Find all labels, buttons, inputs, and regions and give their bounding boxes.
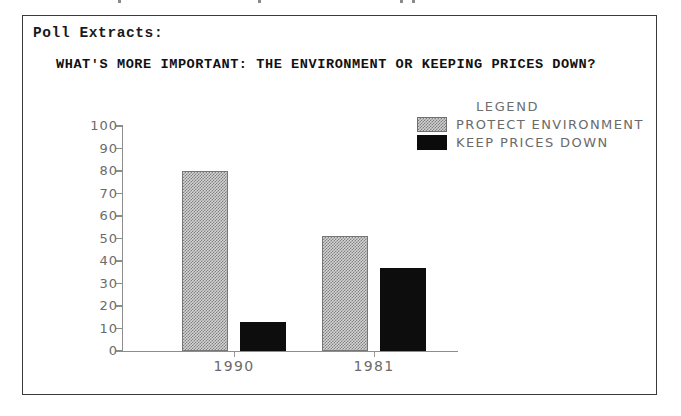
bar-1981-protect-environment (322, 236, 368, 351)
chart-title: WHAT'S MORE IMPORTANT: THE ENVIRONMENT O… (56, 57, 596, 72)
y-tick-label: 30 (78, 276, 118, 291)
bar-chart-plot-area: 0102030405060708090100 19901981 (80, 126, 470, 376)
scan-artifact-strip (0, 0, 681, 9)
bars-layer (122, 126, 458, 351)
x-tick-label-1981: 1981 (354, 358, 395, 374)
section-label: Poll Extracts: (33, 25, 163, 41)
y-tick-label: 100 (78, 118, 118, 133)
y-tick-label: 0 (78, 343, 118, 358)
legend-title: LEGEND (476, 99, 644, 114)
legend-label-keep-prices-down: KEEP PRICES DOWN (456, 135, 609, 150)
y-tick-label: 80 (78, 163, 118, 178)
legend-label-protect-environment: PROTECT ENVIRONMENT (456, 117, 644, 132)
y-tick-label: 90 (78, 141, 118, 156)
y-tick-label: 60 (78, 208, 118, 223)
y-tick-label: 70 (78, 186, 118, 201)
y-tick-label: 50 (78, 231, 118, 246)
bar-1990-protect-environment (182, 171, 228, 351)
y-tick-label: 40 (78, 253, 118, 268)
x-tick-label-1990: 1990 (214, 358, 255, 374)
x-tick-mark (374, 351, 375, 357)
y-tick-label: 20 (78, 298, 118, 313)
bar-1990-keep-prices-down (240, 322, 286, 351)
x-axis-line (122, 351, 458, 352)
y-tick-label: 10 (78, 321, 118, 336)
x-tick-mark (234, 351, 235, 357)
bar-1981-keep-prices-down (380, 268, 426, 351)
